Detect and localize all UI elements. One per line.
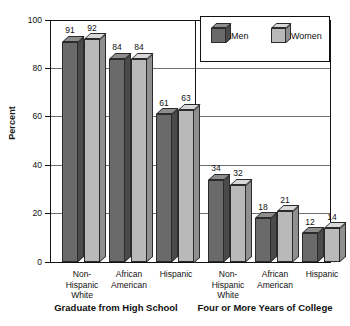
bar-front-face (84, 39, 100, 262)
bar-value-label: 34 (211, 164, 220, 173)
bar-front-face (255, 218, 271, 262)
y-tick-label-60: 60 (18, 112, 42, 121)
bar-women-hs-hispanic: 63 (178, 110, 194, 263)
bar-men-college-nonhispanicwhite: 34 (208, 180, 224, 262)
bar-men-college-hispanic: 12 (302, 233, 318, 262)
bar-side-face (194, 104, 200, 262)
y-tick-mark-0 (45, 262, 50, 263)
bar-front-face (208, 180, 224, 262)
category-line-3: White (200, 290, 256, 301)
bar-value-label: 14 (327, 213, 336, 222)
bar-men-hs-africanamerican: 84 (109, 59, 125, 262)
category-line-3: White (54, 290, 110, 301)
bar-front-face (131, 59, 147, 262)
y-tick-label-20: 20 (18, 209, 42, 218)
y-tick-mark-60 (45, 116, 50, 117)
bar-side-face (293, 206, 299, 262)
bar-women-college-nonhispanicwhite: 32 (230, 185, 246, 262)
y-tick-label-80: 80 (18, 64, 42, 73)
bar-side-face (246, 179, 252, 262)
y-tick-mark-40 (45, 165, 50, 166)
bar-value-label: 32 (233, 169, 242, 178)
bar-value-label: 84 (134, 43, 143, 52)
legend-label-women: Women (291, 31, 322, 41)
category-line-2: American (101, 280, 157, 291)
category-label-hs-hispanic: Hispanic (148, 269, 204, 280)
group-title-graduate-high-school: Graduate from High School (36, 302, 196, 313)
bar-value-label: 63 (181, 94, 190, 103)
y-axis-line (50, 20, 51, 262)
bar-front-face (109, 59, 125, 262)
category-line-1: Hispanic (148, 269, 204, 280)
legend-label-men: Men (231, 31, 249, 41)
group-title-four-or-more-years-college: Four or More Years of College (190, 302, 340, 313)
bar-front-face (277, 211, 293, 262)
bar-women-college-africanamerican: 21 (277, 211, 293, 262)
y-tick-mark-80 (45, 68, 50, 69)
bar-women-college-hispanic: 14 (324, 228, 340, 262)
bar-value-label: 61 (159, 99, 168, 108)
bar-front-face (230, 185, 246, 262)
y-tick-label-0: 0 (18, 258, 42, 267)
category-line-2: American (247, 280, 303, 291)
y-axis-title: Percent (7, 93, 17, 153)
plot-area: 100 80 60 40 20 0 91 92 84 (50, 20, 331, 262)
bar-value-label: 18 (258, 203, 267, 212)
bar-women-hs-africanamerican: 84 (131, 59, 147, 262)
y-tick-mark-20 (45, 213, 50, 214)
x-axis-line (50, 262, 331, 263)
bar-front-face (302, 233, 318, 262)
y-tick-label-100: 100 (18, 16, 42, 25)
cube-front-face (271, 28, 286, 43)
bar-value-label: 12 (305, 218, 314, 227)
legend: Men Women (200, 16, 330, 62)
bar-front-face (324, 228, 340, 262)
bar-men-hs-hispanic: 61 (156, 114, 172, 262)
bar-value-label: 91 (65, 26, 74, 35)
bar-men-college-africanamerican: 18 (255, 218, 271, 262)
category-label-college-hispanic: Hispanic (294, 269, 350, 280)
bar-side-face (147, 53, 153, 262)
y-tick-mark-100 (45, 20, 50, 21)
bar-front-face (62, 42, 78, 262)
bar-value-label: 84 (112, 43, 121, 52)
bar-men-hs-nonhispanicwhite: 91 (62, 42, 78, 262)
legend-item-women: Women (271, 28, 322, 43)
cube-front-face (211, 28, 226, 43)
bar-value-label: 21 (280, 196, 289, 205)
bar-front-face (156, 114, 172, 262)
bar-value-label: 92 (87, 24, 96, 33)
category-line-1: Hispanic (294, 269, 350, 280)
bar-women-hs-nonhispanicwhite: 92 (84, 39, 100, 262)
bar-side-face (340, 223, 346, 262)
y-tick-label-40: 40 (18, 161, 42, 170)
legend-swatch-cube-icon (211, 28, 226, 43)
legend-item-men: Men (211, 28, 249, 43)
bar-side-face (100, 34, 106, 262)
bar-front-face (178, 110, 194, 263)
legend-swatch-cube-icon (271, 28, 286, 43)
